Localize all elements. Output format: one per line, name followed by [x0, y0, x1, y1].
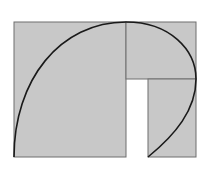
golden-spiral-diagram	[0, 0, 209, 173]
large-square	[14, 22, 126, 157]
bottom-right-rect	[148, 79, 196, 157]
top-right-rect	[126, 22, 196, 79]
